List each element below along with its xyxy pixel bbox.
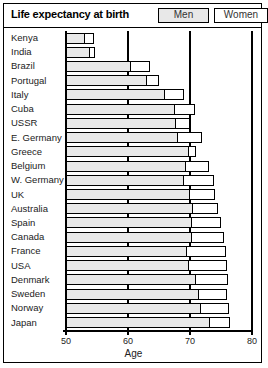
page-title: Life expectancy at birth xyxy=(11,8,129,20)
legend-item-men[interactable]: Men xyxy=(158,8,209,23)
chart-row: Denmark xyxy=(4,273,263,287)
category-label: Kenya xyxy=(11,32,38,43)
category-label: Sweden xyxy=(11,288,45,299)
bar-segment-men xyxy=(66,89,165,100)
legend-item-women[interactable]: Women xyxy=(214,8,268,23)
bar-segment-men xyxy=(66,260,189,271)
bar-segment-men xyxy=(66,61,131,72)
category-label: France xyxy=(11,245,41,256)
bar-segment-men xyxy=(66,189,190,200)
bar-segment-men xyxy=(66,33,85,44)
category-label: Denmark xyxy=(11,274,50,285)
chart-row: Kenya xyxy=(4,31,263,45)
tick-70 xyxy=(189,330,191,335)
category-label: USA xyxy=(11,260,31,271)
chart-row: Portugal xyxy=(4,74,263,88)
bar-segment-men xyxy=(66,104,175,115)
category-label: Greece xyxy=(11,146,42,157)
tick-50 xyxy=(65,330,67,335)
chart-row: Sweden xyxy=(4,287,263,301)
chart-row: Greece xyxy=(4,145,263,159)
category-label: USSR xyxy=(11,117,37,128)
category-label: Norway xyxy=(11,302,43,313)
chart-row: USSR xyxy=(4,116,263,130)
tick-label-70: 70 xyxy=(177,336,203,346)
tick-label-60: 60 xyxy=(115,336,141,346)
category-label: Australia xyxy=(11,203,48,214)
chart-frame: Life expectancy at birth Men Women Kenya… xyxy=(3,3,262,363)
chart-row: Spain xyxy=(4,216,263,230)
plot-area: KenyaIndiaBrazilPortugalItalyCubaUSSRE. … xyxy=(4,28,263,363)
bar-segment-men xyxy=(66,47,90,58)
category-label: India xyxy=(11,46,32,57)
chart-row: France xyxy=(4,244,263,258)
bar-segment-men xyxy=(66,132,178,143)
bar-segment-men xyxy=(66,203,193,214)
bar-segment-men xyxy=(66,303,201,314)
tick-60 xyxy=(127,330,129,335)
category-label: W. Germany xyxy=(11,174,64,185)
chart-row: USA xyxy=(4,259,263,273)
chart-row: Canada xyxy=(4,230,263,244)
bar-segment-men xyxy=(66,75,147,86)
bar-segment-men xyxy=(66,146,189,157)
tick-80 xyxy=(251,330,253,335)
category-label: Cuba xyxy=(11,103,34,114)
bar-segment-men xyxy=(66,289,199,300)
category-label: Canada xyxy=(11,231,44,242)
bar-segment-men xyxy=(66,161,186,172)
bar-segment-men xyxy=(66,232,192,243)
category-label: Italy xyxy=(11,89,28,100)
chart-row: E. Germany xyxy=(4,131,263,145)
bar-segment-men xyxy=(66,118,176,129)
chart-row: Japan xyxy=(4,316,263,330)
chart-row: Belgium xyxy=(4,159,263,173)
tick-label-80: 80 xyxy=(239,336,265,346)
bar-segment-men xyxy=(66,217,192,228)
x-axis-label: Age xyxy=(4,348,263,359)
chart-row: Australia xyxy=(4,202,263,216)
category-label: Portugal xyxy=(11,75,46,86)
bar-segment-men xyxy=(66,317,210,328)
chart-row: Italy xyxy=(4,88,263,102)
x-axis-line xyxy=(63,330,253,332)
category-label: E. Germany xyxy=(11,132,62,143)
chart-row: India xyxy=(4,45,263,59)
tick-label-50: 50 xyxy=(53,336,79,346)
category-label: Belgium xyxy=(11,160,45,171)
chart-row: Brazil xyxy=(4,59,263,73)
category-label: Spain xyxy=(11,217,35,228)
category-label: UK xyxy=(11,189,24,200)
chart-row: UK xyxy=(4,188,263,202)
bar-segment-men xyxy=(66,246,187,257)
category-label: Japan xyxy=(11,317,37,328)
bar-segment-men xyxy=(66,274,196,285)
bar-segment-men xyxy=(66,175,184,186)
chart-header: Life expectancy at birth Men Women xyxy=(4,4,261,28)
category-label: Brazil xyxy=(11,60,35,71)
chart-row: Norway xyxy=(4,301,263,315)
chart-row: W. Germany xyxy=(4,173,263,187)
chart-row: Cuba xyxy=(4,102,263,116)
